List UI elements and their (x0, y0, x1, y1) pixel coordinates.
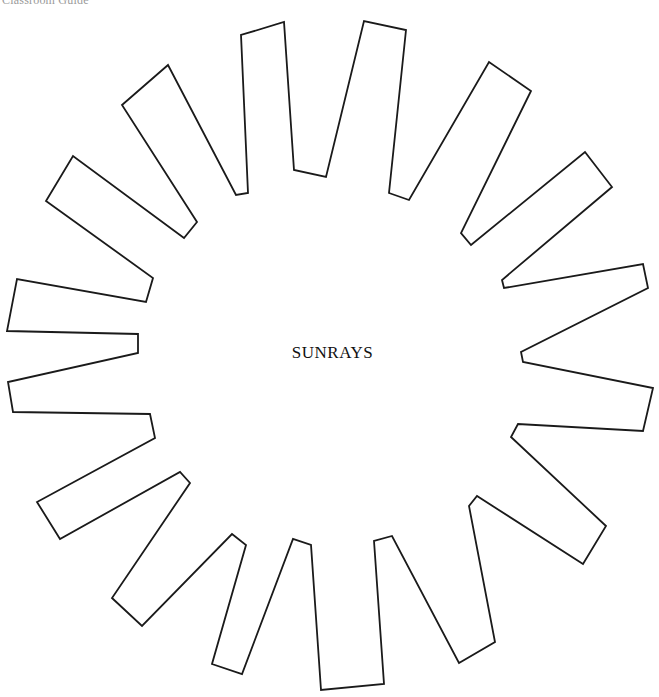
figure-title: SUNRAYS (0, 343, 659, 363)
